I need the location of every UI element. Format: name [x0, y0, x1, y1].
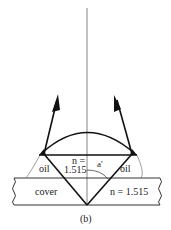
arrow-head-right-icon [114, 95, 121, 112]
label-oil-right: oil [120, 163, 131, 174]
label-oil-left: oil [39, 163, 50, 174]
arrow-head-left-icon [52, 94, 60, 112]
oil-meniscus-left [26, 155, 40, 178]
caption: (b) [80, 213, 92, 225]
front-lens-hemisphere [39, 133, 137, 156]
oil-meniscus-right [137, 155, 142, 178]
optics-diagram: n = 1.515 oil oil a' cover n = 1.515 (b) [0, 0, 171, 230]
label-n-hemisphere-2: 1.515 [64, 164, 87, 175]
label-n-cover: n = 1.515 [110, 186, 148, 197]
label-angle: a' [97, 159, 103, 169]
label-cover: cover [35, 186, 58, 197]
